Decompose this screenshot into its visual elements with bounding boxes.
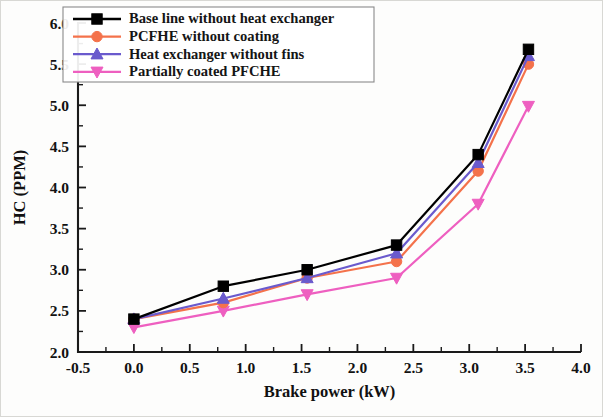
legend-label: Base line without heat exchanger [129,10,335,26]
legend-label: PCFHE without coating [129,28,280,44]
x-tick-label: 3.0 [460,359,480,376]
y-tick-label: 4.0 [50,179,70,196]
marker-square [523,44,533,54]
y-tick-label: 4.5 [50,138,70,155]
y-tick-label: 5.0 [50,97,70,114]
y-tick-label: 2.5 [50,302,70,319]
marker-circle [92,31,102,41]
marker-square [218,281,228,291]
y-tick-label: 2.0 [50,344,70,361]
series-line [134,64,529,319]
series-2 [128,50,535,324]
x-tick-label: 4.0 [571,359,591,376]
x-tick-label: 0.0 [124,359,144,376]
chart-canvas: 2.02.53.03.54.04.55.05.56.0-0.50.00.51.0… [1,1,603,417]
series-line [134,56,529,319]
x-axis-title: Brake power (kW) [264,382,396,401]
x-tick-label: 3.5 [515,359,535,376]
y-tick-label: 3.0 [50,261,70,278]
x-axis-ticks: -0.50.00.51.01.52.02.53.03.54.0 [66,344,591,376]
marker-square [302,265,312,275]
series-line [134,106,529,327]
marker-triangle-down [522,101,534,112]
marker-square [391,240,401,250]
series-line [134,49,529,319]
legend-label: Partially coated PFCHE [129,63,281,79]
chart-figure: 2.02.53.03.54.04.55.05.56.0-0.50.00.51.0… [0,0,603,417]
legend: Base line without heat exchangerPCFHE wi… [63,7,374,82]
series-1 [129,59,534,324]
marker-square [473,149,483,159]
marker-square [129,314,139,324]
x-tick-label: 2.0 [348,359,368,376]
x-tick-label: 2.5 [404,359,424,376]
x-tick-label: -0.5 [66,359,91,376]
y-tick-label: 3.5 [50,220,70,237]
x-tick-label: 1.0 [236,359,256,376]
marker-square [92,14,102,24]
legend-label: Heat exchanger without fins [129,46,305,62]
series-0 [129,44,534,324]
x-tick-label: 0.5 [180,359,200,376]
y-axis-title: HC (PPM) [10,150,29,226]
x-tick-label: 1.5 [292,359,312,376]
